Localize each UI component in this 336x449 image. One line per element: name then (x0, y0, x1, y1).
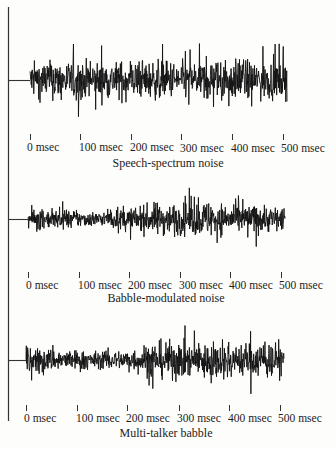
tick-label-200: 200 msec (130, 141, 174, 153)
tick-label-0: 0 msec (24, 412, 56, 424)
tick-label-0: 0 msec (27, 141, 59, 153)
tick-label-500: 500 msec (278, 412, 322, 424)
waveform-trace (28, 188, 285, 247)
waveform-trace (26, 326, 284, 394)
tick-label-400: 400 msec (231, 142, 275, 154)
tick-label-100: 100 msec (76, 412, 120, 424)
tick-label-100: 100 msec (78, 279, 122, 291)
panel-title: Babble-modulated noise (108, 292, 225, 305)
tick-label-300: 300 msec (179, 279, 223, 291)
tick-label-0: 0 msec (26, 279, 58, 291)
tick-label-200: 200 msec (128, 279, 172, 291)
tick-label-300: 300 msec (177, 412, 221, 424)
tick-label-100: 100 msec (79, 141, 123, 153)
tick-label-500: 500 msec (279, 279, 323, 291)
waveform-trace (30, 44, 287, 117)
tick-label-400: 400 msec (228, 412, 272, 424)
tick-label-300: 300 msec (180, 142, 224, 154)
tick-label-200: 200 msec (126, 412, 170, 424)
panel-title: Speech-spectrum noise (113, 157, 224, 170)
waveform-figure (0, 0, 336, 449)
panel-title: Multi-talker babble (120, 427, 213, 440)
tick-label-500: 500 msec (281, 142, 325, 154)
tick-label-400: 400 msec (229, 279, 273, 291)
